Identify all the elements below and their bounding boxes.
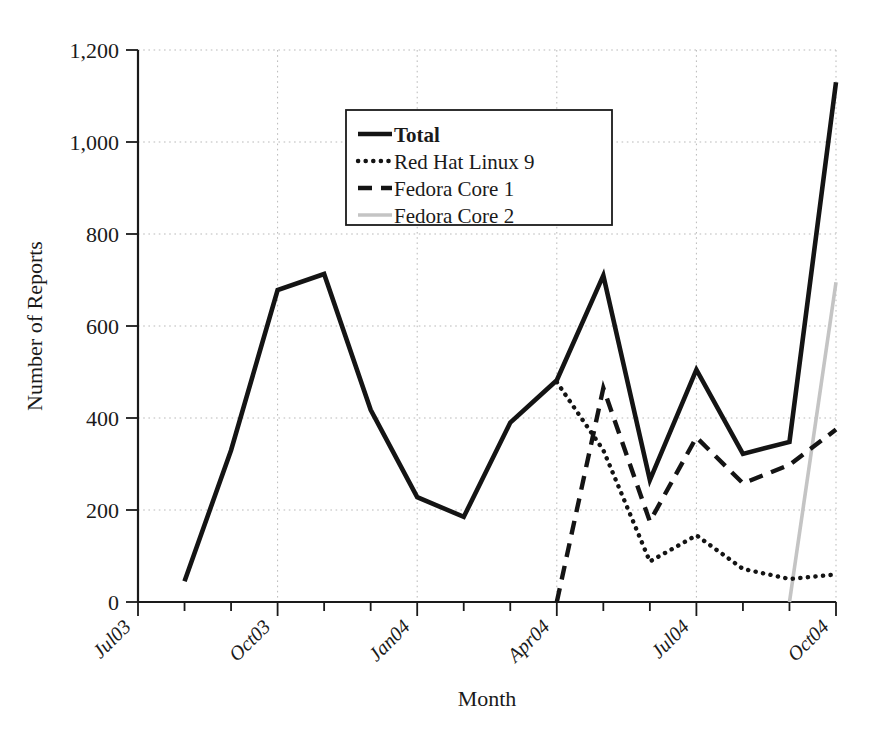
legend-label: Fedora Core 1 — [394, 177, 514, 201]
y-axis-title: Number of Reports — [22, 241, 47, 411]
legend-label: Fedora Core 2 — [394, 204, 514, 228]
y-tick-label-800: 800 — [86, 222, 119, 247]
chart-legend: TotalRed Hat Linux 9Fedora Core 1Fedora … — [346, 110, 612, 228]
y-tick-label-0: 0 — [108, 590, 119, 615]
y-tick-label-200: 200 — [86, 498, 119, 523]
chart-figure: 02004006008001,0001,200 Jul03Oct03Jan04A… — [0, 0, 877, 750]
legend-label: Red Hat Linux 9 — [394, 150, 535, 174]
y-tick-label-1200: 1,200 — [70, 38, 120, 63]
y-tick-label-400: 400 — [86, 406, 119, 431]
legend-label: Total — [394, 123, 440, 147]
y-tick-label-600: 600 — [86, 314, 119, 339]
y-tick-label-1000: 1,000 — [70, 130, 120, 155]
x-axis-title: Month — [458, 686, 517, 711]
line-chart: 02004006008001,0001,200 Jul03Oct03Jan04A… — [0, 0, 877, 750]
